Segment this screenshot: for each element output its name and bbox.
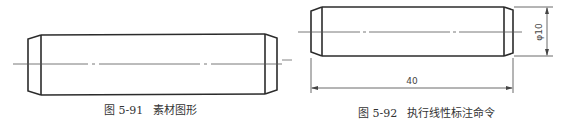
caption-number: 图 5-92 — [358, 107, 397, 120]
caption-title: 执行线性标注命令 — [407, 107, 495, 120]
figure-caption-left: 图 5-91素材图形 — [104, 101, 197, 117]
caption-title: 素材图形 — [153, 104, 197, 117]
diameter-label: φ10 — [534, 23, 544, 41]
pin-outline-right — [311, 7, 513, 56]
pin-outline-left — [28, 34, 277, 95]
figure-caption-right: 图 5-92执行线性标注命令 — [358, 104, 495, 120]
length-label: 40 — [406, 76, 418, 86]
caption-number: 图 5-91 — [104, 104, 143, 117]
